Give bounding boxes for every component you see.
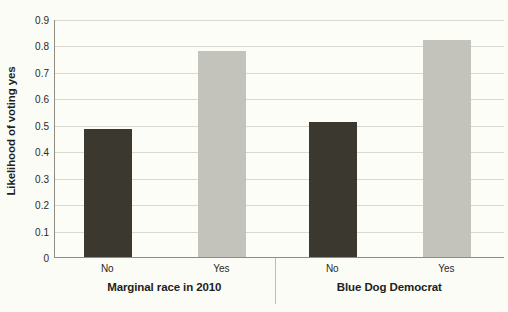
x-axis-tick-label: Yes bbox=[213, 263, 229, 274]
y-axis-title-text: Likelihood of voting yes bbox=[5, 66, 17, 195]
x-axis-tick-label: No bbox=[101, 263, 114, 274]
y-axis-tick-label: 0.2 bbox=[35, 200, 49, 211]
y-axis-tick-label: 0.9 bbox=[35, 15, 49, 26]
plot-area bbox=[54, 20, 504, 258]
y-axis-tick-label: 0.1 bbox=[35, 226, 49, 237]
y-axis-tick-label: 0.6 bbox=[35, 94, 49, 105]
x-axis-tick-label: No bbox=[326, 263, 339, 274]
bar-yes-group2 bbox=[423, 40, 471, 257]
group-label: Marginal race in 2010 bbox=[107, 281, 221, 293]
x-axis-tick-label: Yes bbox=[438, 263, 454, 274]
y-axis-tick-label: 0.5 bbox=[35, 120, 49, 131]
x-axis-group-labels: Marginal race in 2010Blue Dog Democrat bbox=[54, 281, 504, 301]
y-axis-tick-label: 0.3 bbox=[35, 173, 49, 184]
y-axis-title: Likelihood of voting yes bbox=[0, 0, 22, 262]
y-axis-tick-labels: 00.10.20.30.40.50.60.70.80.9 bbox=[22, 0, 52, 270]
y-axis-tick-label: 0.8 bbox=[35, 41, 49, 52]
gridline bbox=[55, 20, 504, 21]
bar-no-group2 bbox=[309, 122, 357, 257]
y-axis-tick-label: 0 bbox=[43, 253, 49, 264]
y-axis-tick-label: 0.4 bbox=[35, 147, 49, 158]
bar-no-group1 bbox=[84, 129, 132, 257]
group-label: Blue Dog Democrat bbox=[337, 281, 442, 293]
x-axis-tick-labels: NoYesNoYes bbox=[54, 260, 504, 280]
bar-chart: Likelihood of voting yes 00.10.20.30.40.… bbox=[0, 0, 508, 312]
y-axis-tick-label: 0.7 bbox=[35, 67, 49, 78]
bar-yes-group1 bbox=[198, 51, 246, 257]
